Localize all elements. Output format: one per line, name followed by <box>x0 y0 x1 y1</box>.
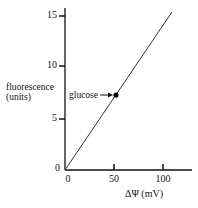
y-axis-label-line2: (units) <box>6 92 31 102</box>
y-tick-label-0: 0 <box>46 162 60 173</box>
x-axis-label: ΔΨ (mV) <box>125 189 163 199</box>
y-axis-label-line1: fluorescence <box>6 82 54 92</box>
glucose-data-point <box>113 92 118 97</box>
y-tick-label-5: 5 <box>43 112 57 123</box>
glucose-annotation: glucose <box>69 90 98 100</box>
arrow-head-icon <box>108 93 113 98</box>
x-tick-label-100: 100 <box>153 173 173 184</box>
fluorescence-vs-membrane-potential-chart: 15 10 5 0 0 50 100 ΔΨ (mV) fluorescence … <box>0 0 198 208</box>
x-tick-label-50: 50 <box>104 173 124 184</box>
y-tick-label-10: 10 <box>43 59 57 70</box>
y-tick-label-15: 15 <box>43 9 57 20</box>
x-tick-label-0: 0 <box>58 173 78 184</box>
